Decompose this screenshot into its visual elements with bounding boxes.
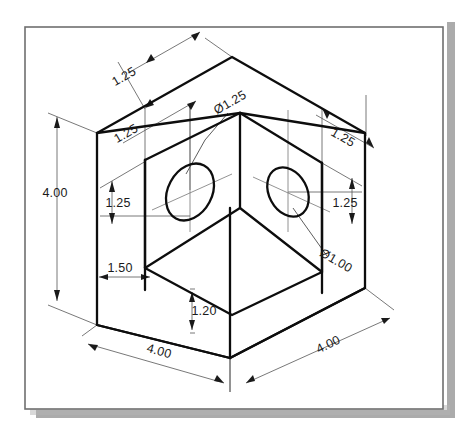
technical-drawing: 1.25 1.25 Ø1.25 1.25 1.25 1.25 Ø1.00 4.0… [0,0,470,440]
dimension-overall-height: 4.00 [42,186,67,200]
dimension-right-hole-125: 1.25 [332,196,357,210]
sheet-border [25,27,443,409]
dimension-left-hole-125: 1.25 [105,196,130,210]
dimension-floor-thickness: 1.20 [191,304,216,318]
dimension-wall-thickness: 1.50 [107,261,132,275]
drawing-canvas: 1.25 1.25 Ø1.25 1.25 1.25 1.25 Ø1.00 4.0… [0,0,470,440]
